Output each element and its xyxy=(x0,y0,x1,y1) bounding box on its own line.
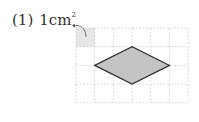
pointer-arrow-head xyxy=(72,24,75,28)
grid-diagram xyxy=(0,0,199,122)
rhombus-shape xyxy=(95,47,170,84)
unit-square-cell xyxy=(76,28,95,47)
